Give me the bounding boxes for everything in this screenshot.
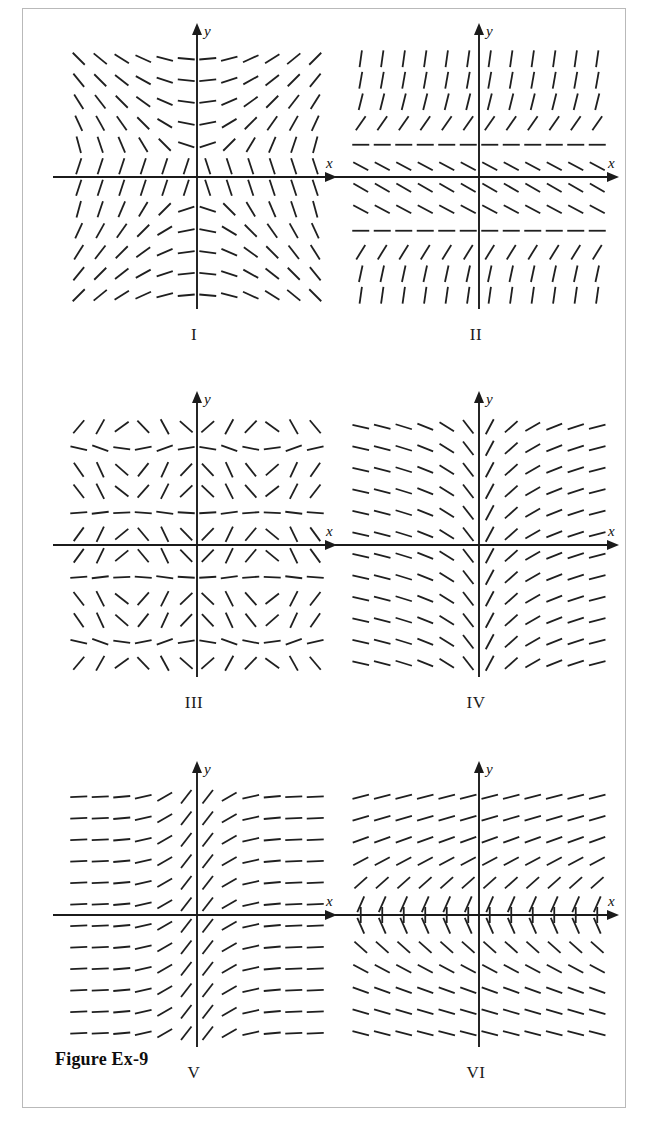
panel-V: xy [49, 757, 339, 1057]
panel-label-III: III [49, 693, 339, 713]
svg-text:y: y [202, 761, 211, 777]
svg-text:x: x [607, 523, 615, 539]
svg-text:y: y [202, 23, 211, 39]
panel-VI: xy [331, 757, 621, 1057]
svg-text:y: y [202, 391, 211, 407]
svg-text:y: y [484, 23, 493, 39]
figure-caption: Figure Ex-9 [55, 1049, 148, 1070]
panel-I: xy [49, 19, 339, 319]
svg-text:y: y [484, 761, 493, 777]
panel-label-I: I [49, 325, 339, 345]
panel-label-IV: IV [331, 693, 621, 713]
panel-II: xy [331, 19, 621, 319]
svg-text:x: x [607, 155, 615, 171]
panel-III: xy [49, 387, 339, 687]
svg-text:x: x [607, 893, 615, 909]
panel-label-II: II [331, 325, 621, 345]
panel-IV: xy [331, 387, 621, 687]
panel-label-VI: VI [331, 1063, 621, 1083]
figure-frame: xy I xy II xy III xy IV xy V xy VI Figur… [22, 8, 626, 1108]
svg-text:y: y [484, 391, 493, 407]
